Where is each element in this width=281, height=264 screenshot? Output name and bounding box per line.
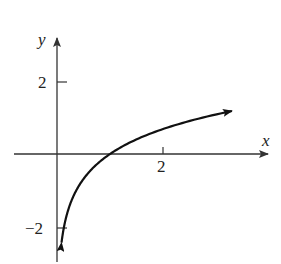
x-axis-label: x	[261, 131, 270, 150]
x-tick-2-label: 2	[157, 157, 166, 176]
chart-canvas: y x 2 −2 2	[0, 0, 281, 264]
log-curve	[62, 111, 232, 243]
y-tick-2-label: 2	[38, 73, 47, 92]
y-axis-label: y	[36, 30, 46, 49]
y-tick-neg2-label: −2	[25, 219, 43, 238]
